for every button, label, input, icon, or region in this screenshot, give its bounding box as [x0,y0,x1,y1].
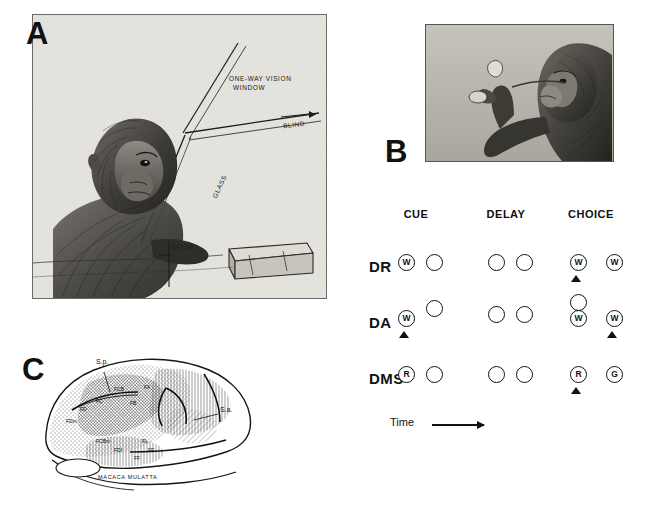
label-sp: S.p. [96,358,108,365]
label-fc: FC [96,398,103,404]
well-da-choice-right[interactable]: W [606,310,623,327]
label-window: WINDOW [233,84,265,91]
label-fb: FB [130,400,136,406]
time-axis-arrow [432,424,484,426]
label-fl: FL [142,438,148,444]
column-header-choice: CHOICE [558,208,624,220]
well-dr-cue-right[interactable] [426,254,443,271]
label-one-way-vision: ONE-WAY VISION [229,75,291,82]
well-da-choice-left[interactable]: W [570,310,587,327]
label-door: DOOR [172,243,194,250]
species-label: MACACA MULATTA [98,474,157,480]
panel-a-drawing [33,15,326,298]
label-fdm: FDm [66,418,77,424]
well-dr-delay-right[interactable] [516,254,533,271]
time-axis-label: Time [390,416,414,428]
well-dms-cue-right[interactable] [426,366,443,383]
well-dr-delay-left[interactable] [488,254,505,271]
pointer-dr-choice-left [571,275,581,282]
panel-b-drawing [426,25,613,161]
row-label-da: DA [369,314,392,331]
well-da-cue-right[interactable] [426,300,443,317]
panel-a-image: ONE-WAY VISION WINDOW BLIND GLASS DOOR [32,14,327,299]
well-dms-cue-left[interactable]: R [398,366,415,383]
label-fa: FA [144,384,150,390]
well-dr-choice-left[interactable]: W [570,254,587,271]
panel-letter-a: A [26,18,48,49]
figure-root: ONE-WAY VISION WINDOW BLIND GLASS DOOR A [0,0,649,511]
label-fd: FD [80,406,87,412]
well-dms-choice-right[interactable]: G [606,366,623,383]
label-sa: S.a. [220,406,232,413]
well-dr-choice-right[interactable]: W [606,254,623,271]
well-dr-cue-left[interactable]: W [398,254,415,271]
well-da-choice-top[interactable] [570,294,587,311]
label-ff: FF [134,455,140,461]
panel-c-drawing [38,348,298,498]
label-fdl: FDI [114,447,122,453]
well-dms-choice-left[interactable]: R [570,366,587,383]
label-fcbm: FCBm [96,438,110,444]
pointer-da-cue-left [399,331,409,338]
row-label-dr: DR [369,258,392,275]
panel-letter-b: B [385,136,407,167]
column-header-cue: CUE [386,208,446,220]
label-fcb: FCB [114,386,124,392]
well-dms-delay-left[interactable] [488,366,505,383]
task-diagram: CUE DELAY CHOICE DR DA DMS W W W W W W R… [370,208,640,468]
panel-b-image [425,24,614,162]
column-header-delay: DELAY [474,208,538,220]
well-da-cue-left[interactable]: W [398,310,415,327]
pointer-da-choice-right [607,331,617,338]
well-da-delay-right[interactable] [516,306,533,323]
well-dms-delay-right[interactable] [516,366,533,383]
panel-c-brain-diagram: S.p. S.a. FCB FA FB FC FD FDm FCBm FL FD… [38,348,298,498]
well-da-delay-left[interactable] [488,306,505,323]
label-fe: FE [148,447,154,453]
pointer-dms-choice-left [571,387,581,394]
